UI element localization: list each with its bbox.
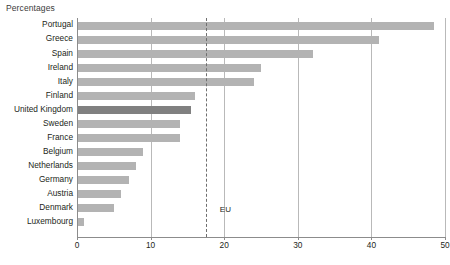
bar: [78, 134, 180, 142]
gridline-50: [445, 18, 446, 237]
bar: [78, 204, 114, 212]
bar: [78, 162, 136, 170]
bar: [78, 22, 434, 30]
chart-title: Percentages: [6, 3, 55, 13]
category-label: Netherlands: [0, 160, 73, 170]
x-tick-mark: [445, 237, 446, 240]
eu-annotation-label: EU: [220, 205, 231, 214]
category-label: Belgium: [0, 146, 73, 156]
x-tick-mark: [371, 237, 372, 240]
x-tick-label: 50: [440, 240, 449, 250]
gridline-40: [371, 18, 372, 237]
bar: [78, 218, 84, 226]
x-tick-mark: [224, 237, 225, 240]
bar: [78, 78, 254, 86]
x-tick-label: 10: [146, 240, 155, 250]
x-tick-label: 0: [75, 240, 80, 250]
x-tick-mark: [298, 237, 299, 240]
x-tick-mark: [77, 237, 78, 240]
bar: [78, 50, 313, 58]
bar: [78, 190, 121, 198]
category-label: Finland: [0, 90, 73, 100]
category-label: Greece: [0, 33, 73, 43]
bar: [78, 64, 261, 72]
x-tick-mark: [151, 237, 152, 240]
category-label: Italy: [0, 76, 73, 86]
eu-dashed-line: [206, 18, 207, 237]
bar: [78, 36, 379, 44]
x-tick-label: 40: [367, 240, 376, 250]
category-label: Denmark: [0, 202, 73, 212]
x-axis-line: [77, 237, 446, 238]
category-label: Sweden: [0, 118, 73, 128]
category-label: Spain: [0, 48, 73, 58]
bar: [78, 92, 195, 100]
category-label: France: [0, 132, 73, 142]
category-label: Ireland: [0, 62, 73, 72]
category-label: United Kingdom: [0, 104, 73, 114]
category-label: Austria: [0, 188, 73, 198]
bar: [78, 106, 191, 114]
plot-area: EU: [77, 18, 445, 237]
x-tick-label: 30: [293, 240, 302, 250]
bar: [78, 176, 129, 184]
bar: [78, 148, 143, 156]
category-label: Portugal: [0, 19, 73, 29]
x-tick-label: 20: [220, 240, 229, 250]
bar: [78, 120, 180, 128]
category-label: Luxembourg: [0, 216, 73, 226]
category-label: Germany: [0, 174, 73, 184]
